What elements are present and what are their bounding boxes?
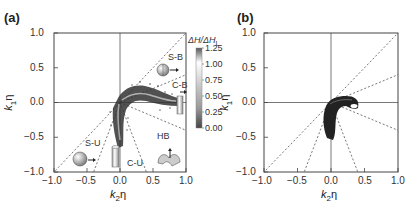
xtick-b-2: 0.0 <box>324 175 338 186</box>
ytick-b-0: 1.0 <box>242 27 256 38</box>
cb-tick-1: 1.00 <box>205 59 223 69</box>
sphere-unbounded-icon <box>73 152 96 166</box>
xtick-a-0: −1.0 <box>42 175 62 186</box>
scatter-cloud-b <box>323 96 358 140</box>
ytick-b-3: −0.5 <box>236 131 256 142</box>
xtick-b-4: 1.0 <box>391 175 405 186</box>
ytick-b-1: 0.5 <box>242 62 256 73</box>
xtick-a-4: 1.0 <box>179 175 193 186</box>
xtick-a-2: 0.0 <box>113 175 127 186</box>
hemisphere-bumps-icon <box>158 148 180 166</box>
xtick-b-1: −0.5 <box>287 175 307 186</box>
sphere-bounded-icon <box>157 64 179 76</box>
ylabel-a: k1η <box>2 95 17 111</box>
ytick-a-2: 0.0 <box>30 96 44 107</box>
ytick-a-3: −0.5 <box>24 131 44 142</box>
xtick-b-3: 0.5 <box>358 175 372 186</box>
ytick-a-0: 1.0 <box>30 27 44 38</box>
region-label-cu: C-U <box>127 158 143 168</box>
xlabel-a: k2η <box>110 188 126 203</box>
colorbar <box>196 48 202 128</box>
xlabel-b: k2η <box>321 188 337 203</box>
region-label-su: S-U <box>85 138 101 148</box>
region-label-cb: C-B <box>172 80 188 90</box>
ytick-a-1: 0.5 <box>30 62 44 73</box>
cylinder-unbounded-icon <box>112 146 119 168</box>
cb-tick-0: 1.25 <box>205 43 223 53</box>
ylabel-b: k1η <box>218 95 233 111</box>
chart-canvas <box>0 0 418 211</box>
region-label-sb: S-B <box>168 52 183 62</box>
xtick-a-3: 0.5 <box>146 175 160 186</box>
ytick-a-4: −1.0 <box>24 166 44 177</box>
xtick-a-1: −0.5 <box>76 175 96 186</box>
region-label-hb: HB <box>157 131 170 141</box>
cb-tick-2: 0.75 <box>205 75 223 85</box>
xtick-b-0: −1.0 <box>252 175 272 186</box>
panel-b-plot <box>264 33 398 172</box>
cb-tick-5: 0.00 <box>205 123 223 133</box>
ytick-b-2: 0.0 <box>242 96 256 107</box>
